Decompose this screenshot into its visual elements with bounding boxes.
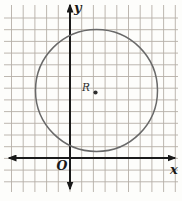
x-axis-label: x [169, 162, 178, 177]
geometry-figure: R y x O [0, 0, 182, 201]
origin-label: O [57, 158, 68, 173]
y-axis-label: y [73, 0, 83, 15]
coordinate-plane-svg: R y x O [0, 0, 182, 201]
center-point-dot [93, 90, 97, 94]
center-point-label: R [81, 81, 90, 93]
